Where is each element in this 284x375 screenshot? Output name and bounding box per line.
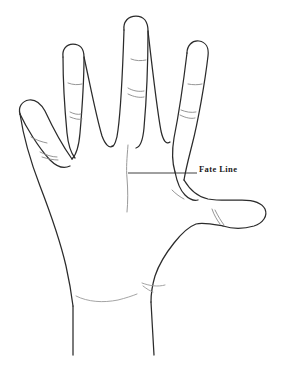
index-crease-lower-2 bbox=[180, 115, 195, 118]
hand-outline bbox=[19, 16, 265, 355]
ring-finger-outline bbox=[63, 44, 84, 159]
middle-crease-upper bbox=[131, 59, 146, 61]
wrist-right-line bbox=[151, 302, 154, 355]
index-finger-outline-inner bbox=[173, 53, 187, 172]
ring-crease-upper bbox=[68, 83, 82, 85]
fate-line-label: Fate Line bbox=[199, 165, 237, 174]
hand-drawing bbox=[0, 0, 284, 375]
ring-crease-lower-2 bbox=[70, 117, 82, 119]
thumb-outline-upper bbox=[184, 180, 266, 228]
valley-middle-index bbox=[148, 31, 170, 143]
middle-crease-lower-2 bbox=[128, 94, 144, 97]
middle-finger-outline bbox=[124, 16, 148, 148]
index-crease-lower bbox=[181, 110, 196, 112]
pinky-finger-outline-inner bbox=[20, 114, 70, 167]
middle-finger-outline-inner bbox=[112, 30, 124, 146]
valley-ring-middle bbox=[84, 57, 113, 147]
ring-finger-outline-inner bbox=[63, 57, 75, 158]
wrist-crease-left bbox=[76, 294, 137, 302]
index-crease-upper bbox=[188, 84, 202, 85]
middle-crease-lower bbox=[128, 88, 144, 91]
index-finger-outline bbox=[184, 41, 208, 180]
ring-crease-lower bbox=[70, 112, 81, 114]
thumb-outline-lower bbox=[151, 223, 223, 302]
pinky-crease-upper bbox=[31, 137, 47, 143]
pinky-crease-lower bbox=[40, 152, 57, 157]
palm-diagram: Fate Line bbox=[0, 0, 284, 375]
fate-line-stroke bbox=[127, 145, 128, 212]
pinky-crease-lower-2 bbox=[42, 157, 58, 160]
palm-lines bbox=[76, 145, 165, 302]
